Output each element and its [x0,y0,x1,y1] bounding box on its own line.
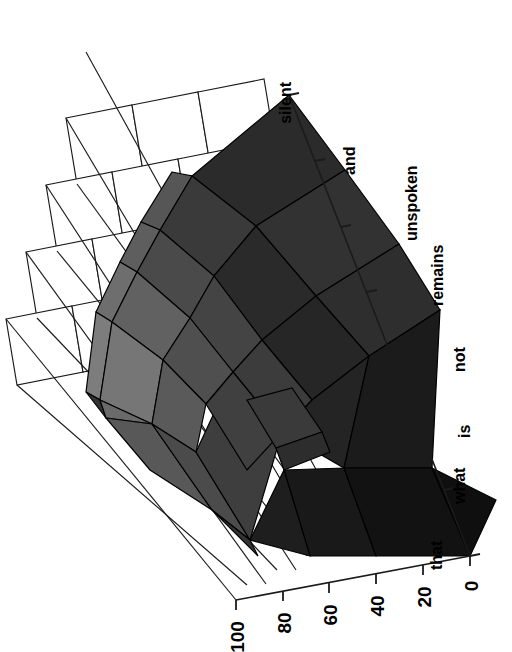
category-tick-is: is [456,425,473,438]
value-tick-80: 80 [274,612,295,633]
category-tick-what: what [451,467,468,505]
value-axis-tick-labels: 0 20 40 60 80 100 [227,581,482,652]
category-tick-that: that [428,540,445,570]
category-tick-silent: silent [277,81,294,123]
value-tick-20: 20 [414,586,435,607]
value-tick-60: 60 [320,604,341,625]
category-tick-and: and [341,147,358,175]
surface-plot-figure: 0 20 40 60 80 100 that what is not remai… [0,0,512,652]
plot-canvas: 0 20 40 60 80 100 that what is not remai… [0,0,512,652]
value-tick-100: 100 [227,621,248,652]
category-tick-unspoken: unspoken [403,165,420,241]
category-tick-not: not [451,346,468,372]
value-tick-0: 0 [461,581,482,592]
category-tick-remains: remains [429,245,446,306]
value-tick-40: 40 [367,595,388,616]
